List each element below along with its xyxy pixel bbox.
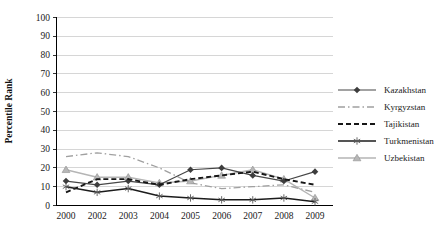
marker-uzbekistan-2000: [62, 166, 70, 173]
gridlines: [56, 17, 333, 186]
legend-label-kazakhstan: Kazakhstan: [384, 85, 426, 95]
legend-item-kazakhstan: Kazakhstan: [338, 85, 426, 95]
x-tick-label-2002: 2002: [88, 211, 107, 221]
y-tick-label-40: 40: [41, 125, 51, 135]
y-tick-label-10: 10: [41, 182, 51, 192]
y-tick-label-70: 70: [41, 69, 51, 79]
legend-item-uzbekistan: Uzbekistan: [338, 153, 425, 163]
x-tick-label-2004: 2004: [150, 211, 169, 221]
line-chart: Percentile Rank 010203040506070809010020…: [0, 0, 440, 236]
x-tick-label-2000: 2000: [57, 211, 76, 221]
y-tick-label-100: 100: [36, 13, 51, 23]
y-tick-label-50: 50: [41, 107, 51, 117]
legend-label-kyrgyzstan: Kyrgyzstan: [384, 102, 426, 112]
y-tick-label-60: 60: [41, 88, 51, 98]
y-tick-label-0: 0: [45, 201, 50, 211]
x-tick-label-2005: 2005: [181, 211, 200, 221]
legend-item-kyrgyzstan: Kyrgyzstan: [338, 102, 426, 112]
x-tick-label-2009: 2009: [306, 211, 325, 221]
y-tick-label-20: 20: [41, 163, 51, 173]
x-tick-label-2006: 2006: [212, 211, 231, 221]
legend-diamond-icon: [354, 87, 361, 94]
legend-item-turkmenistan: Turkmenistan: [338, 136, 434, 146]
marker-kazakhstan-2006: [218, 165, 225, 172]
marker-kazakhstan-2002: [94, 182, 101, 189]
legend-item-tajikistan: Tajikistan: [338, 119, 420, 129]
marker-kazakhstan-2009: [312, 168, 319, 175]
x-tick-label-2008: 2008: [274, 211, 293, 221]
chart-legend: KazakhstanKyrgyzstanTajikistanTurkmenist…: [338, 85, 434, 163]
y-axis-title: Percentile Rank: [4, 78, 14, 144]
legend-label-turkmenistan: Turkmenistan: [384, 136, 434, 146]
y-tick-label-90: 90: [41, 31, 51, 41]
series-lines: [62, 153, 319, 206]
percentile-rank-chart-figure: Percentile Rank 010203040506070809010020…: [0, 0, 440, 236]
x-tick-label-2003: 2003: [119, 211, 138, 221]
y-tick-label-80: 80: [41, 50, 51, 60]
x-tick-label-2007: 2007: [243, 211, 262, 221]
y-tick-label-30: 30: [41, 144, 51, 154]
marker-kazakhstan-2005: [187, 166, 194, 173]
legend-label-tajikistan: Tajikistan: [384, 119, 420, 129]
legend-label-uzbekistan: Uzbekistan: [384, 153, 425, 163]
